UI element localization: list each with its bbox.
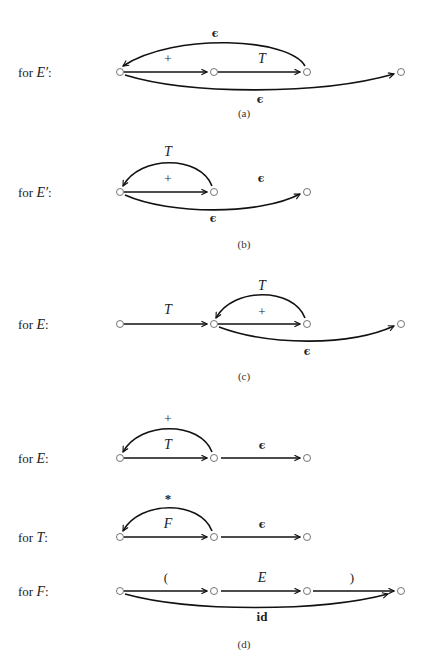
row-label: for E′: — [18, 185, 52, 200]
panel-caption: (c) — [238, 370, 251, 383]
edge-label: ϵ — [257, 93, 264, 106]
panel-caption: (a) — [238, 107, 251, 120]
panel-c: for E: T + T ϵ (c) — [18, 278, 405, 383]
state-node — [304, 534, 311, 541]
panel-a: for E′: + T ϵ ϵ (a) — [18, 27, 405, 120]
row-label: for E: — [18, 317, 49, 332]
state-node — [211, 321, 218, 328]
row-label: for E′: — [18, 65, 52, 80]
edge-epsilon-skip — [219, 326, 394, 341]
state-node — [117, 189, 124, 196]
edge-label: T — [164, 437, 173, 452]
row-label: for F: — [18, 584, 49, 599]
state-node — [211, 534, 218, 541]
state-node — [398, 321, 405, 328]
row-F: for F: ( E ) id — [18, 570, 405, 624]
row-label: for T: — [18, 530, 48, 545]
edge-epsilon-loop — [123, 43, 305, 66]
state-node — [398, 69, 405, 76]
edge-label: * — [165, 491, 172, 506]
edge-label: ϵ — [259, 518, 266, 531]
edge-label: T — [258, 278, 267, 293]
row-label: for E: — [18, 451, 49, 466]
row-T: for T: F * ϵ — [18, 491, 311, 545]
edge-label: ϵ — [304, 345, 311, 358]
edge-epsilon-skip — [125, 74, 394, 90]
edge-id-skip — [125, 594, 388, 608]
edge-label: F — [163, 516, 173, 531]
state-node — [304, 189, 311, 196]
edge-label: + — [164, 51, 171, 66]
row-E: for E: T + ϵ — [18, 411, 311, 466]
edge-label: ( — [164, 570, 168, 585]
state-node — [117, 588, 124, 595]
edge-label: id — [257, 609, 269, 624]
state-node — [304, 69, 311, 76]
edge-label: T — [258, 51, 267, 66]
edge-label: ϵ — [212, 27, 219, 40]
panel-b: for E′: + T ϵ ϵ (b) — [18, 144, 311, 251]
panel-d: for E: T + ϵ for T: F * ϵ — [18, 411, 405, 651]
state-node — [117, 321, 124, 328]
edge-label: E — [257, 570, 267, 585]
edge-label: ϵ — [259, 439, 266, 452]
edge-label: + — [164, 171, 171, 186]
edge-label: T — [164, 302, 173, 317]
panel-caption: (d) — [238, 638, 251, 651]
state-node — [211, 189, 218, 196]
state-node — [211, 588, 218, 595]
state-node — [304, 588, 311, 595]
state-node — [304, 455, 311, 462]
stray-epsilon-label: ϵ — [258, 172, 265, 185]
state-node — [211, 69, 218, 76]
state-node — [304, 321, 311, 328]
state-node — [117, 69, 124, 76]
edge-label: T — [164, 144, 173, 159]
transition-diagrams-figure: for E′: + T ϵ ϵ (a) for E′: + T ϵ ϵ (b) — [0, 0, 428, 670]
edge-label: + — [164, 411, 171, 426]
panel-caption: (b) — [238, 238, 251, 251]
state-node — [117, 455, 124, 462]
state-node — [117, 534, 124, 541]
edge-label: + — [258, 304, 265, 319]
edge-label: ) — [350, 570, 354, 585]
state-node — [398, 588, 405, 595]
edge-epsilon-skip — [125, 194, 300, 210]
edge-label: ϵ — [210, 212, 217, 225]
state-node — [211, 455, 218, 462]
